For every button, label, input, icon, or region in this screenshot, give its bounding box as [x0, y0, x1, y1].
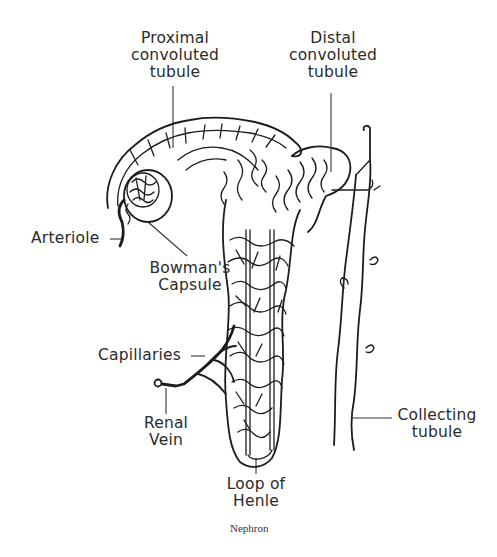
label-line: tubule: [120, 64, 230, 81]
nephron-illustration: [0, 0, 497, 557]
bowmans-capsule-drawing: [119, 170, 172, 246]
label-line: Vein: [136, 432, 196, 449]
label-line: tubule: [392, 424, 482, 441]
renal-vein-end: [155, 380, 162, 387]
loop-of-henle-drawing: [223, 200, 300, 467]
label-line: Loop of: [216, 476, 296, 493]
nephron-diagram: Proximal convoluted tubule Distal convol…: [0, 0, 497, 557]
label-renal-vein: Renal Vein: [136, 415, 196, 449]
label-collecting-tubule: Collecting tubule: [392, 407, 482, 441]
proximal-tubule-drawing: [107, 118, 301, 208]
label-line: convoluted: [120, 47, 230, 64]
label-line: Bowman's: [140, 260, 240, 277]
label-proximal-convoluted-tubule: Proximal convoluted tubule: [120, 30, 230, 81]
collecting-tubule-drawing: [334, 126, 380, 450]
label-line: Distal: [278, 30, 388, 47]
label-line: Proximal: [120, 30, 230, 47]
label-arteriole: Arteriole: [31, 230, 99, 247]
label-line: convoluted: [278, 47, 388, 64]
label-line: Renal: [136, 415, 196, 432]
figure-caption: Nephron: [230, 522, 269, 534]
label-line: tubule: [278, 64, 388, 81]
label-line: Capsule: [140, 277, 240, 294]
label-line: Collecting: [392, 407, 482, 424]
label-line: Henle: [216, 493, 296, 510]
label-capillaries: Capillaries: [98, 347, 181, 364]
label-bowmans-capsule: Bowman's Capsule: [140, 260, 240, 294]
label-distal-convoluted-tubule: Distal convoluted tubule: [278, 30, 388, 81]
bowmans-leader: [148, 222, 187, 256]
label-loop-of-henle: Loop of Henle: [216, 476, 296, 510]
